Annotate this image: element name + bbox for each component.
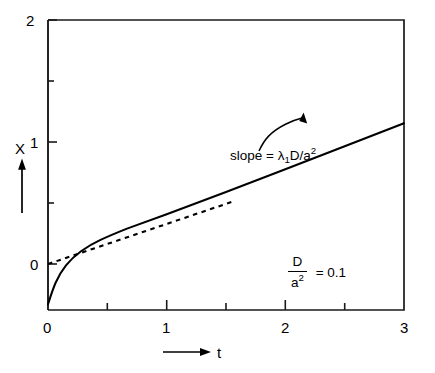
fraction-denominator-exponent: 2: [299, 272, 304, 283]
x-axis-ticks: [107, 300, 344, 310]
plot-frame: [48, 20, 404, 310]
fraction-denominator: a2: [288, 272, 307, 290]
slope-annotation: slope = λ1D/a2: [230, 145, 316, 165]
slope-annotation-suffix: D/a: [290, 148, 311, 163]
y-axis-title: X: [15, 140, 25, 157]
parameter-fraction: D a2: [288, 255, 307, 290]
plot-canvas: [0, 0, 435, 373]
slope-annotation-exponent: 2: [311, 145, 316, 156]
x-tick-label-2: 2: [281, 320, 289, 335]
slope-annotation-prefix: slope =: [230, 148, 278, 163]
x-tick-label-0: 0: [43, 320, 51, 335]
x-axis-title: t: [217, 344, 221, 361]
fraction-denominator-base: a: [291, 274, 299, 289]
y-axis-arrow: [18, 159, 26, 214]
y-axis-ticks: [48, 20, 57, 264]
solid-curve: [48, 123, 404, 304]
y-tick-label-1: 1: [30, 135, 38, 150]
parameter-annotation: D a2 = 0.1: [288, 255, 346, 290]
fraction-numerator: D: [288, 255, 307, 272]
chart-figure: 2 1 0 0 1 2 3 X t slope = λ1D/a2 D a2 = …: [0, 0, 435, 373]
x-tick-label-3: 3: [400, 320, 408, 335]
y-tick-label-0: 0: [30, 257, 38, 272]
x-axis-arrow: [163, 348, 211, 356]
parameter-value: = 0.1: [311, 265, 346, 280]
y-tick-label-2: 2: [26, 13, 34, 28]
x-tick-label-1: 1: [162, 320, 170, 335]
